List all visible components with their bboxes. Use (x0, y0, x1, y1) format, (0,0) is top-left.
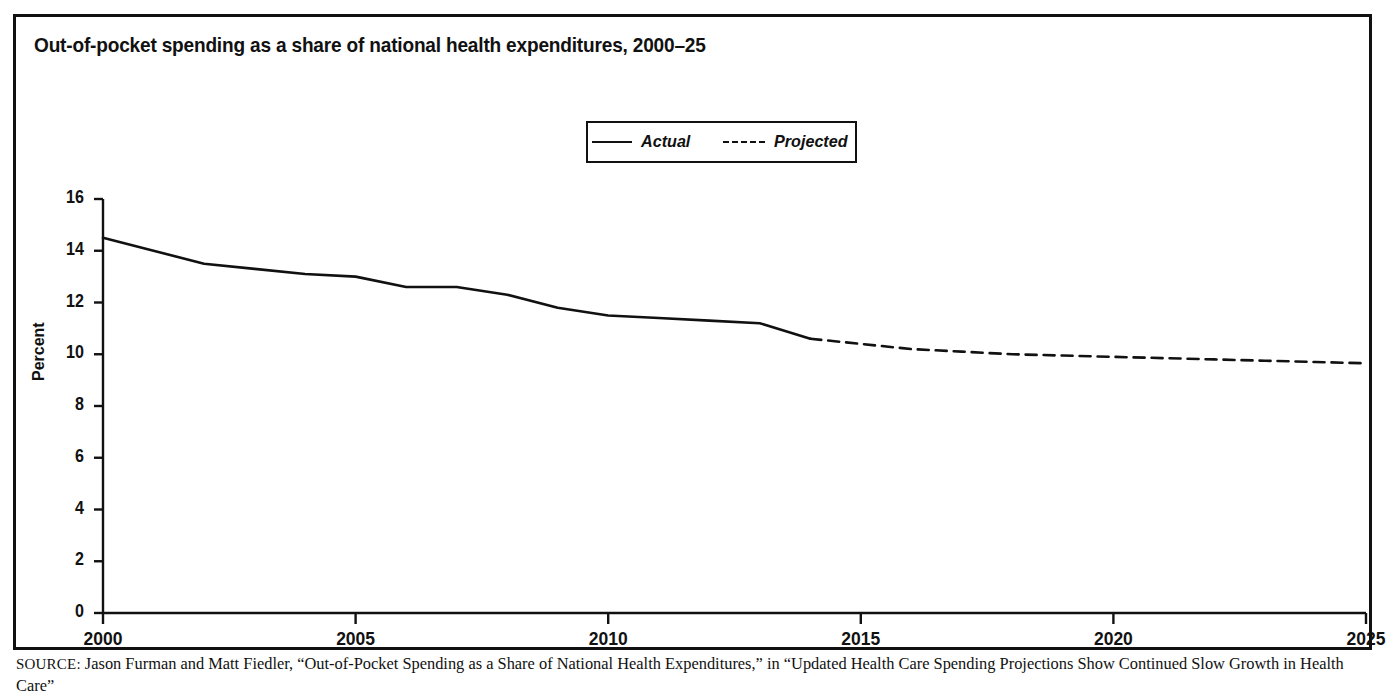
x-tick-label: 2005 (316, 629, 396, 650)
figure-frame (13, 14, 1372, 650)
y-tick-label: 2 (47, 549, 84, 570)
figure-page: Out-of-pocket spending as a share of nat… (0, 0, 1390, 693)
y-tick-label: 12 (47, 291, 84, 312)
legend-item-actual[interactable]: Actual (592, 132, 693, 152)
page-title: Out-of-pocket spending as a share of nat… (34, 33, 706, 57)
x-tick-label: 2000 (63, 629, 143, 650)
y-tick-label: 16 (47, 187, 84, 208)
y-tick-label: 10 (47, 342, 84, 363)
y-tick-label: 0 (47, 601, 84, 622)
source-prefix: SOURCE: (16, 656, 81, 672)
y-tick-label: 14 (47, 239, 84, 260)
y-tick-label: 4 (47, 498, 84, 519)
x-tick-label: 2025 (1326, 629, 1390, 650)
source-note: SOURCE: Jason Furman and Matt Fiedler, “… (16, 653, 1376, 693)
legend-label-projected: Projected (774, 132, 848, 152)
chart-legend: Actual Projected (586, 121, 857, 163)
x-tick-label: 2020 (1073, 629, 1153, 650)
legend-label-actual: Actual (641, 132, 690, 152)
solid-line-icon (592, 141, 632, 143)
y-tick-label: 8 (47, 394, 84, 415)
x-tick-label: 2015 (821, 629, 901, 650)
dashed-line-icon (723, 141, 765, 143)
y-axis-label: Percent (30, 322, 48, 381)
y-tick-label: 6 (47, 446, 84, 467)
x-tick-label: 2010 (568, 629, 648, 650)
legend-item-projected[interactable]: Projected (723, 132, 851, 152)
source-body: Jason Furman and Matt Fiedler, “Out-of-P… (16, 654, 1344, 693)
